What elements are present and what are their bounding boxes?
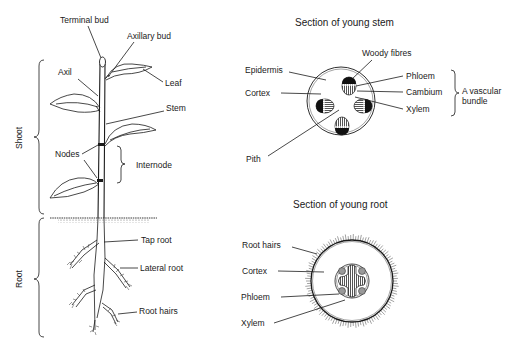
root-phloem [339, 288, 346, 295]
root-phloem [359, 288, 366, 295]
terminal-bud [100, 57, 106, 67]
root-bracket [34, 218, 44, 337]
internode-bracket [117, 146, 125, 183]
label-cambium: Cambium [406, 87, 442, 97]
label-tap-root: Tap root [141, 235, 172, 245]
label-epidermis: Epidermis [245, 65, 283, 75]
vascular-bundle-bottom [335, 117, 349, 135]
vascular-bundle-top [342, 77, 356, 95]
label-cortex: Cortex [245, 88, 271, 98]
label-terminal-bud: Terminal bud [60, 15, 109, 25]
label-root-section-phloem: Phloem [241, 292, 270, 302]
label-vascular-bundle-1: A vascular [462, 86, 501, 96]
label-root-section-xylem: Xylem [241, 318, 265, 328]
vascular-bundle-bracket [451, 70, 459, 116]
shoot-bracket [34, 60, 44, 214]
stem-section: Section of young stem Woody fibres [245, 17, 501, 164]
label-vascular-bundle-2: bundle [462, 96, 488, 106]
vascular-bundle-right [354, 99, 372, 113]
root-phloem [339, 268, 346, 275]
node-mark [98, 143, 104, 146]
label-root: Root [14, 269, 24, 288]
soil-surface [50, 218, 157, 223]
label-root-section-root-hairs: Root hairs [242, 240, 281, 250]
leaf-upper-left [50, 94, 100, 112]
label-internode: Internode [136, 160, 172, 170]
label-stem: Stem [166, 103, 186, 113]
label-leaf: Leaf [165, 78, 182, 88]
label-root-section-cortex: Cortex [242, 266, 268, 276]
root-phloem [359, 268, 366, 275]
label-nodes: Nodes [55, 149, 80, 159]
label-root-hairs: Root hairs [139, 306, 178, 316]
vascular-bundle-left [316, 99, 334, 113]
node-mark [97, 179, 103, 182]
label-axillary-bud: Axillary bud [127, 31, 171, 41]
plant-structure-diagram: Terminal bud Axillary bud Axil Leaf Stem… [0, 0, 522, 350]
root-section: Section of young root Root hairs Cortex … [241, 199, 399, 328]
root-section-title: Section of young root [293, 199, 388, 210]
whole-plant-drawing [34, 57, 157, 337]
label-xylem: Xylem [406, 104, 430, 114]
root-system [67, 218, 132, 335]
label-woody-fibres: Woody fibres [362, 48, 411, 58]
stem-section-title: Section of young stem [295, 17, 394, 28]
label-axil: Axil [58, 67, 72, 77]
stem [98, 64, 105, 218]
label-lateral-root: Lateral root [140, 263, 184, 273]
leaf-middle-right [105, 124, 156, 146]
label-phloem: Phloem [406, 71, 435, 81]
label-pith: Pith [246, 154, 261, 164]
label-shoot: Shoot [14, 126, 24, 149]
